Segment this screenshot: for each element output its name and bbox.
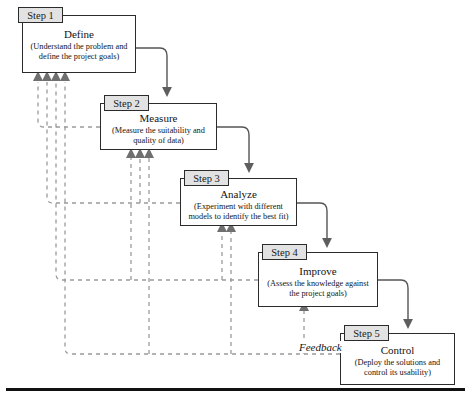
step-title-define: Define [23,28,135,41]
step-box-improve[interactable]: Improve (Assess the knowledge against th… [258,252,378,307]
diagram-canvas: Define (Understand the problem and defin… [0,0,471,407]
bottom-rule [6,388,465,391]
connector-improve-to-control [378,280,408,324]
step-tab-1[interactable]: Step 1 [18,7,63,23]
step-tab-2[interactable]: Step 2 [104,95,149,111]
step-title-control: Control [341,344,454,357]
feedback-label: Feedback [297,341,344,353]
step-desc-improve: (Assess the knowledge against the projec… [259,279,377,299]
connector-analyze-to-improve [297,203,327,243]
step-desc-measure: (Measure the suitability and quality of … [101,126,216,146]
step-title-measure: Measure [101,112,216,125]
step-desc-control: (Deploy the solutions and control its us… [341,358,454,378]
step-tab-5[interactable]: Step 5 [344,325,389,341]
feedback-measure-to-define [38,82,100,127]
step-tab-4[interactable]: Step 4 [262,244,307,260]
step-box-define[interactable]: Define (Understand the problem and defin… [22,15,136,73]
step-desc-define: (Understand the problem and define the p… [23,42,135,62]
step-title-improve: Improve [259,265,377,278]
step-title-analyze: Analyze [181,188,296,201]
connector-define-to-measure [136,48,167,92]
connector-measure-to-analyze [217,127,249,168]
step-desc-analyze: (Experiment with different models to ide… [181,202,296,222]
step-tab-3[interactable]: Step 3 [184,170,229,186]
